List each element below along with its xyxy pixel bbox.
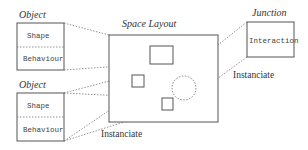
junction-title: Junction	[252, 7, 286, 18]
space-layout-title: Space Layout	[122, 18, 176, 29]
layout-shape-large-rect	[150, 46, 173, 64]
junction-interaction: Interaction	[249, 37, 299, 45]
object-top-behaviour: Behaviour	[23, 55, 64, 63]
space-layout: Space Layout	[109, 18, 218, 122]
layout-shape-small-rect-2	[162, 98, 173, 110]
diagram-canvas: Object Shape Behaviour Object Shape Beha…	[0, 0, 308, 150]
object-bottom: Object Shape Behaviour	[17, 79, 64, 141]
object-top: Object Shape Behaviour	[17, 9, 64, 70]
layout-shape-small-rect-1	[132, 75, 144, 87]
object-top-shape: Shape	[27, 32, 50, 40]
object-bottom-title: Object	[19, 79, 46, 90]
object-bottom-behaviour: Behaviour	[23, 126, 64, 134]
object-bottom-shape: Shape	[27, 102, 50, 110]
instanciate-label-junction: Instanciate	[233, 70, 274, 80]
connector-top-object-to-layout	[64, 23, 109, 35]
instanciate-label-objects: Instanciate	[101, 129, 142, 139]
object-top-title: Object	[19, 9, 46, 20]
junction: Junction Interaction	[247, 7, 299, 57]
